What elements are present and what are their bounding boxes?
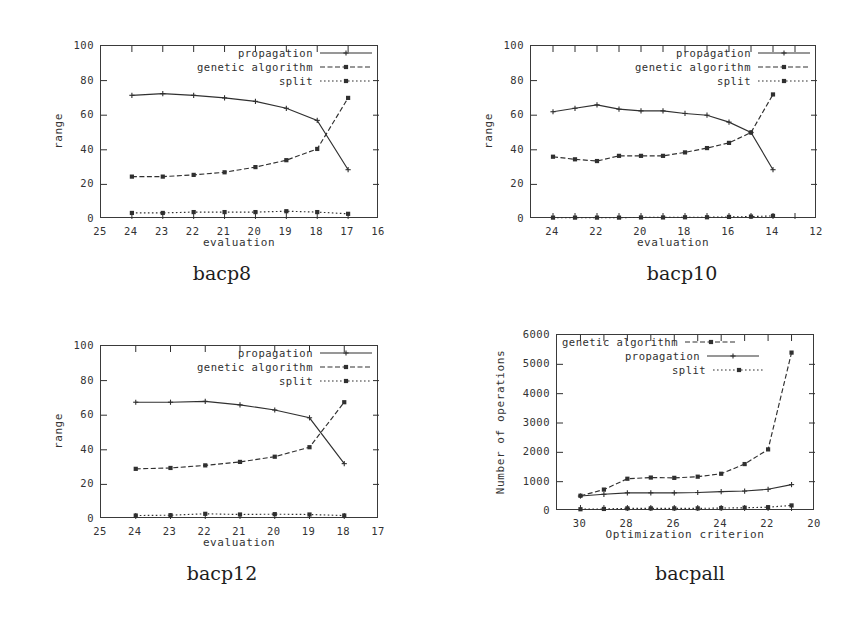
data-point-marker xyxy=(749,130,753,134)
x-tick-label: 16 xyxy=(371,225,385,237)
data-point-marker xyxy=(625,506,629,510)
data-point-marker xyxy=(203,463,207,467)
data-point-marker xyxy=(660,108,665,113)
x-tick-label: 14 xyxy=(765,225,779,237)
data-point-marker xyxy=(743,462,747,466)
x-tick-label: 22 xyxy=(589,225,603,237)
y-tick-label: 0 xyxy=(482,212,524,224)
x-tick-label: 12 xyxy=(809,225,823,237)
y-axis-label: Number of operations xyxy=(494,350,507,494)
y-tick-label: 0 xyxy=(508,504,550,516)
data-point-marker xyxy=(789,351,793,355)
data-point-marker xyxy=(315,118,320,123)
data-point-marker xyxy=(550,109,555,114)
data-point-marker xyxy=(551,155,555,159)
data-point-marker xyxy=(551,216,555,220)
panel-caption-bacp12: bacp12 xyxy=(187,562,257,584)
data-point-marker xyxy=(695,490,700,495)
data-point-marker xyxy=(342,400,346,404)
series-line-genetic-algorithm xyxy=(136,402,345,469)
legend-label: genetic algorithm xyxy=(562,336,678,348)
y-tick-label: 4000 xyxy=(508,387,550,399)
legend-label: split xyxy=(672,364,706,376)
data-point-marker xyxy=(649,506,653,510)
data-point-marker xyxy=(766,447,770,451)
data-point-marker xyxy=(682,111,687,116)
panel-caption-bacp8: bacp8 xyxy=(193,262,251,284)
x-tick-label: 23 xyxy=(163,525,177,537)
legend-bacp10: propagationgenetic algorithmsplit xyxy=(0,46,810,88)
x-tick-label: 24 xyxy=(545,225,559,237)
data-point-marker xyxy=(344,365,348,369)
data-point-marker xyxy=(238,512,242,516)
legend-entry: propagation xyxy=(0,346,372,360)
data-point-marker xyxy=(168,513,172,517)
legend-label: propagation xyxy=(676,47,751,59)
data-point-marker xyxy=(342,513,346,517)
data-point-marker xyxy=(770,167,775,172)
data-point-marker xyxy=(749,214,753,218)
data-point-marker xyxy=(601,492,606,497)
x-tick-label: 17 xyxy=(371,525,385,537)
data-point-marker xyxy=(727,215,731,219)
data-point-marker xyxy=(130,211,134,215)
data-point-marker xyxy=(789,482,794,487)
series-line-genetic-algorithm xyxy=(132,98,348,177)
legend-label: genetic algorithm xyxy=(197,361,313,373)
data-point-marker xyxy=(160,91,165,96)
data-point-marker xyxy=(781,50,786,55)
data-point-marker xyxy=(719,489,724,494)
data-point-marker xyxy=(602,487,606,491)
data-point-marker xyxy=(572,106,577,111)
x-axis-label: evaluation xyxy=(203,536,275,549)
data-point-marker xyxy=(638,108,643,113)
legend-line-sample xyxy=(758,47,810,59)
data-point-marker xyxy=(672,506,676,510)
data-point-marker xyxy=(719,472,723,476)
legend-line-sample xyxy=(707,350,759,362)
data-point-marker xyxy=(737,368,741,372)
data-point-marker xyxy=(168,466,172,470)
x-tick-label: 25 xyxy=(93,525,107,537)
legend-label: genetic algorithm xyxy=(635,61,751,73)
data-point-marker xyxy=(578,507,582,511)
x-tick-label: 16 xyxy=(721,225,735,237)
data-point-marker xyxy=(346,212,350,216)
x-axis-label: Optimization criterion xyxy=(606,528,765,541)
data-point-marker xyxy=(315,147,319,151)
x-tick-label: 25 xyxy=(93,225,107,237)
data-point-marker xyxy=(253,99,258,104)
figure-canvas: 02040608010025242322212019181716evaluati… xyxy=(0,0,868,628)
data-point-marker xyxy=(284,106,289,111)
data-point-marker xyxy=(594,102,599,107)
data-point-marker xyxy=(253,210,257,214)
data-point-marker xyxy=(683,215,687,219)
data-point-marker xyxy=(602,507,606,511)
series-line-split xyxy=(580,505,791,509)
data-point-marker xyxy=(709,340,713,344)
data-point-marker xyxy=(168,400,173,405)
y-tick-label: 20 xyxy=(482,177,524,189)
legend-entry: split xyxy=(0,374,372,388)
legend-entry: propagation xyxy=(562,349,765,363)
data-point-marker xyxy=(683,150,687,154)
data-point-marker xyxy=(625,490,630,495)
legend-entry: split xyxy=(562,363,765,377)
data-point-marker xyxy=(595,216,599,220)
data-point-marker xyxy=(573,216,577,220)
x-tick-label: 18 xyxy=(336,525,350,537)
x-tick-label: 18 xyxy=(309,225,323,237)
data-point-marker xyxy=(639,215,643,219)
data-point-marker xyxy=(203,512,207,516)
legend-line-sample xyxy=(320,347,372,359)
data-point-marker xyxy=(727,141,731,145)
data-point-marker xyxy=(191,93,196,98)
data-point-marker xyxy=(771,92,775,96)
y-tick-label: 0 xyxy=(52,212,94,224)
data-point-marker xyxy=(730,353,735,358)
data-point-marker xyxy=(704,113,709,118)
data-point-marker xyxy=(782,65,786,69)
data-point-marker xyxy=(284,209,288,213)
data-point-marker xyxy=(130,175,134,179)
data-point-marker xyxy=(616,107,621,112)
